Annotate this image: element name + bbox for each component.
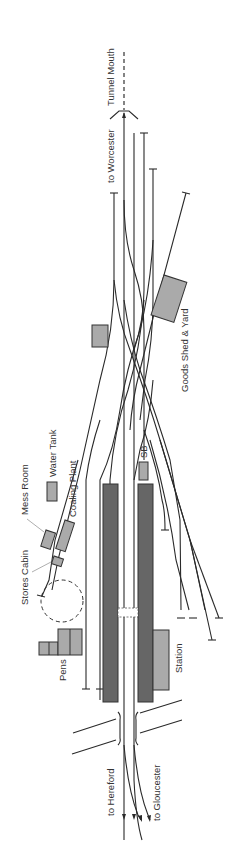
yard-building <box>92 325 108 347</box>
label-to-gloucester: to Gloucester <box>151 765 162 822</box>
platform-down <box>138 484 153 702</box>
label-station: Station <box>173 643 184 673</box>
label-to-hereford: to Hereford <box>105 768 116 816</box>
track-diagram: Tunnel Mouth to Worcester Goods Shed & Y… <box>0 0 239 867</box>
label-water-tank: Water Tank <box>47 429 58 477</box>
siding-long <box>160 440 212 640</box>
coaling-plant <box>56 520 75 552</box>
footbridge <box>118 608 138 617</box>
turntable <box>41 580 83 622</box>
label-stores-cabin: Stores Cabin <box>19 550 30 605</box>
stores-cabin <box>52 556 64 567</box>
label-to-worcester: to Worcester <box>105 129 116 183</box>
label-pens: Pens <box>57 659 68 681</box>
station-building <box>153 630 169 690</box>
label-goods-shed: Goods Shed & Yard <box>179 308 190 392</box>
platform-up <box>103 484 118 702</box>
signal-box <box>139 462 148 480</box>
arrow-head-gloucester <box>138 815 142 822</box>
water-tank <box>47 482 57 501</box>
buffer-stop <box>37 595 45 597</box>
bridge-parapet <box>118 712 138 745</box>
crossover <box>114 280 205 610</box>
crossover <box>150 440 189 610</box>
road-overbridge <box>72 700 182 754</box>
arrow-head-tunnel <box>122 112 126 118</box>
label-sb: SB <box>138 445 149 458</box>
label-coaling-plant: Coaling Plant <box>67 460 78 517</box>
label-tunnel-mouth: Tunnel Mouth <box>105 48 116 106</box>
leader-mess-room <box>27 519 44 532</box>
leader-stores-cabin <box>32 562 51 572</box>
mess-room <box>41 530 56 549</box>
arrow-head-hereford <box>122 814 126 820</box>
label-mess-room: Mess Room <box>19 464 30 515</box>
